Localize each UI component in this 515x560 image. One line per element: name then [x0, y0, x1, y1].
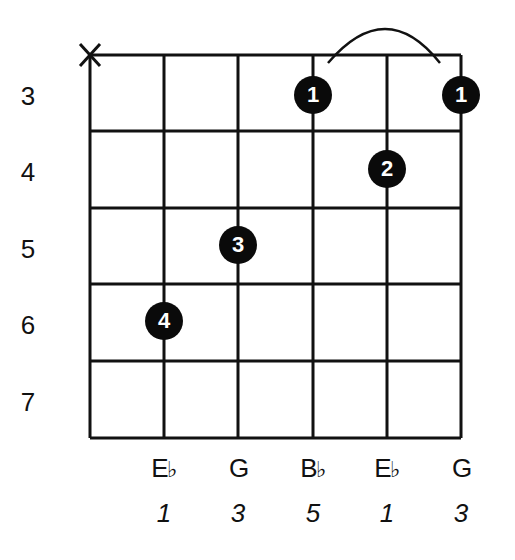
interval-label: 1 — [139, 500, 189, 526]
note-name: B♭ — [288, 455, 338, 483]
finger-dot: 3 — [219, 226, 257, 264]
interval-label: 3 — [436, 500, 486, 526]
interval-label: 1 — [362, 500, 412, 526]
finger-dot: 2 — [368, 150, 406, 188]
interval-label: 3 — [213, 500, 263, 526]
chord-diagram: 3 4 5 6 7 1 1 2 3 4 E♭ G B♭ E♭ G 1 3 5 1… — [0, 0, 515, 560]
finger-dot: 1 — [294, 76, 332, 114]
fret-label-6: 6 — [8, 312, 48, 338]
fret-label-3: 3 — [8, 83, 48, 109]
barre-arc — [328, 29, 440, 63]
note-name: E♭ — [139, 455, 189, 483]
fret-label-4: 4 — [8, 159, 48, 185]
interval-label: 5 — [288, 500, 338, 526]
note-name: G — [436, 455, 486, 483]
fret-label-7: 7 — [8, 389, 48, 415]
finger-dot: 4 — [145, 302, 183, 340]
note-name: E♭ — [362, 455, 412, 483]
finger-dot: 1 — [442, 76, 480, 114]
note-name: G — [213, 455, 263, 483]
fret-label-5: 5 — [8, 236, 48, 262]
